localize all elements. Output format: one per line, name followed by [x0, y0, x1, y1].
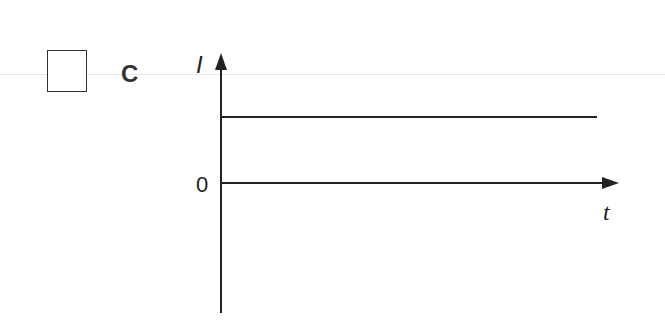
current-time-graph [0, 0, 665, 322]
x-axis-arrowhead-icon [602, 177, 619, 189]
y-axis-arrowhead-icon [215, 53, 227, 70]
